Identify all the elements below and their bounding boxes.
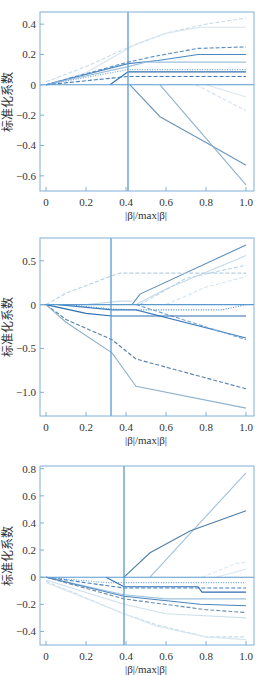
coefficient-path-var7 <box>66 305 246 310</box>
y-tick-label: 0.8 <box>22 463 36 475</box>
coefficient-path-chart-2: 00.20.40.60.81.00.50−0.5−1.0|β|/max|β|标准… <box>0 225 264 450</box>
coefficient-path-var9 <box>130 85 246 165</box>
x-tick-label: 0 <box>43 196 49 208</box>
y-tick-label: −1.0 <box>16 386 36 398</box>
coefficient-path-var6 <box>106 577 246 592</box>
y-axis-label: 标准化系数 <box>0 526 15 586</box>
x-tick-label: 0.6 <box>159 421 173 433</box>
series-group <box>46 18 246 185</box>
coefficient-path-var10 <box>160 85 246 185</box>
coefficient-path-var1 <box>150 473 246 577</box>
y-tick-label: 0.2 <box>22 48 36 60</box>
coefficient-path-chart-3: 00.20.40.60.81.00.80.60.40.20−0.2−0.4|β|… <box>0 450 264 676</box>
coefficient-path-var13 <box>46 583 246 640</box>
y-tick-label: 0 <box>31 299 37 311</box>
coefficient-path-var11 <box>46 305 246 389</box>
series-group <box>46 473 246 640</box>
y-tick-label: −0.5 <box>16 342 36 354</box>
x-tick-label: 0 <box>43 421 49 433</box>
y-axis-label: 标准化系数 <box>0 297 15 357</box>
y-tick-label: 0.5 <box>22 255 36 267</box>
x-tick-label: 0.8 <box>199 196 213 208</box>
plot-frame <box>40 238 254 416</box>
coefficient-path-var1 <box>132 245 246 305</box>
coefficient-path-chart-1: 00.20.40.60.81.00.40.20−0.2−0.4−0.6|β|/m… <box>0 0 264 225</box>
y-axis-label: 标准化系数 <box>0 72 15 132</box>
y-tick-label: −0.6 <box>16 170 36 182</box>
x-tick-label: 0 <box>43 650 49 662</box>
coefficient-path-var3 <box>140 265 246 304</box>
x-axis-label: |β|/max|β| <box>125 209 167 221</box>
coefficient-path-var12 <box>206 85 246 97</box>
series-group <box>46 245 246 408</box>
coefficient-path-var11 <box>196 85 246 111</box>
x-tick-label: 1.0 <box>239 650 253 662</box>
coefficient-path-var8 <box>58 305 246 338</box>
x-tick-label: 0.6 <box>159 650 173 662</box>
coefficient-path-var12 <box>46 305 246 409</box>
x-tick-label: 0.2 <box>79 196 93 208</box>
coefficient-path-var4 <box>166 277 246 305</box>
x-axis-label: |β|/max|β| <box>125 434 167 446</box>
y-tick-label: −0.2 <box>16 109 36 121</box>
x-tick-label: 0.2 <box>79 650 93 662</box>
y-tick-label: −0.2 <box>16 598 36 610</box>
x-tick-label: 0.4 <box>119 421 133 433</box>
x-tick-label: 0.4 <box>119 196 133 208</box>
coefficient-path-var6 <box>86 301 132 305</box>
y-tick-label: 0 <box>31 79 37 91</box>
x-tick-label: 1.0 <box>239 421 253 433</box>
y-tick-label: −0.4 <box>16 625 36 637</box>
x-tick-label: 0.2 <box>79 421 93 433</box>
coefficient-path-var4 <box>46 55 246 85</box>
x-tick-label: 0.8 <box>199 650 213 662</box>
plot-frame <box>40 12 254 191</box>
x-axis-label: |β|/max|β| <box>125 663 167 675</box>
y-tick-label: 0.6 <box>22 490 36 502</box>
lasso-path-figure: 00.20.40.60.81.00.40.20−0.2−0.4−0.6|β|/m… <box>0 0 264 676</box>
coefficient-path-var7 <box>110 72 246 85</box>
x-tick-label: 0.6 <box>159 196 173 208</box>
y-tick-label: −0.4 <box>16 139 36 151</box>
x-tick-label: 1.0 <box>239 196 253 208</box>
x-tick-label: 0.4 <box>119 650 133 662</box>
y-tick-label: 0 <box>31 571 37 583</box>
y-tick-label: 0.2 <box>22 544 36 556</box>
y-tick-label: 0.4 <box>22 517 36 529</box>
y-tick-label: 0.4 <box>22 18 36 30</box>
x-tick-label: 0.8 <box>199 421 213 433</box>
